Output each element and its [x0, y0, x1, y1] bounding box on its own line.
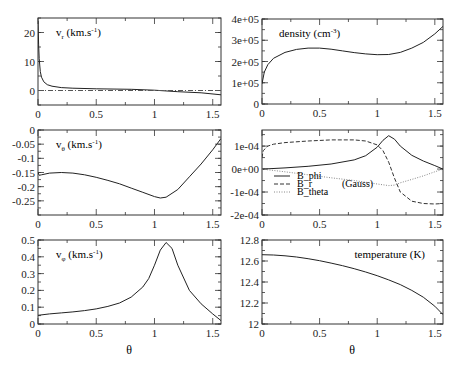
- x-tick-label: 1.5: [206, 218, 220, 230]
- x-tick-label: 0.5: [89, 108, 103, 120]
- x-tick-label: 0: [35, 327, 41, 339]
- panel-density: 00.511.501e+052e+053e+054e+05density (cm…: [231, 13, 443, 119]
- y-tick-label: 0: [30, 85, 36, 97]
- panel-annotation: density (cm-3): [279, 27, 340, 40]
- y-tick-label: 0.4: [21, 251, 35, 263]
- x-tick-label: 0.5: [89, 218, 103, 230]
- x-tick-label: 1.5: [206, 108, 220, 120]
- x-axis-label-right: θ: [349, 343, 355, 357]
- x-tick-label: 1.5: [428, 107, 442, 119]
- series-b-r: [262, 140, 443, 204]
- y-tick-label: 0: [30, 124, 36, 136]
- y-tick-label: 1e+05: [231, 77, 259, 89]
- panel-bfield: 00.511.51e-040e+00-1e-04-2e-04B_phiB_rB_…: [230, 130, 443, 230]
- x-tick-label: 1: [152, 218, 158, 230]
- y-tick-label: -2e-04: [230, 209, 259, 221]
- x-tick-label: 0: [259, 107, 265, 119]
- x-tick-label: 0.5: [313, 107, 327, 119]
- y-tick-label: 12.6: [240, 255, 260, 267]
- y-tick-label: 0e+00: [231, 163, 259, 175]
- y-tick-label: 0: [30, 318, 36, 330]
- panel-annotation: vφ (km.s-1): [56, 248, 103, 263]
- x-tick-label: 0.5: [313, 327, 327, 339]
- y-tick-label: -0.25: [12, 195, 35, 207]
- y-tick-label: 12.4: [240, 276, 260, 288]
- panel-annotation: vr (km.s-1): [56, 26, 101, 41]
- x-tick-label: 1: [374, 107, 380, 119]
- panel-annotation: vθ (km.s-1): [56, 138, 102, 153]
- y-tick-label: -1e-04: [230, 186, 259, 198]
- series-temperature: [262, 255, 443, 315]
- series-b-phi: [262, 136, 443, 169]
- x-tick-label: 0: [259, 327, 265, 339]
- panel-annotation: temperature (K): [354, 248, 425, 261]
- panel-vphi: 00.511.500.10.20.30.40.5vφ (km.s-1): [21, 234, 221, 339]
- y-tick-label: 0: [254, 98, 260, 110]
- panel-vtheta: 00.511.50-0.05-0.1-0.15-0.2-0.25vθ (km.s…: [12, 124, 221, 230]
- panel-vr: 00.511.501020vr (km.s-1): [24, 18, 221, 120]
- y-tick-label: -0.1: [18, 152, 35, 164]
- y-tick-label: 10: [24, 56, 36, 68]
- figure: 00.511.501020vr (km.s-1) 00.511.501e+052…: [0, 0, 455, 365]
- y-tick-label: 1e-04: [234, 140, 260, 152]
- x-tick-label: 1: [374, 327, 380, 339]
- plot-frame: [262, 130, 443, 215]
- x-tick-label: 0: [35, 108, 41, 120]
- x-tick-label: 1: [152, 327, 158, 339]
- y-tick-label: 0.2: [21, 284, 35, 296]
- y-tick-label: -0.2: [18, 181, 35, 193]
- y-tick-label: 12: [248, 318, 259, 330]
- x-tick-label: 1.5: [428, 327, 442, 339]
- y-tick-label: 12.8: [240, 234, 260, 246]
- x-axis-label-left: θ: [126, 343, 132, 357]
- x-tick-label: 0: [259, 218, 265, 230]
- x-tick-label: 0.5: [89, 327, 103, 339]
- panel-annotation: (Gauss): [342, 178, 373, 190]
- x-tick-label: 0.5: [313, 218, 327, 230]
- x-tick-label: 1.5: [206, 327, 220, 339]
- x-tick-label: 0: [35, 218, 41, 230]
- x-tick-label: 1.5: [428, 218, 442, 230]
- panel-temperature: 00.511.51212.212.412.612.8temperature (K…: [240, 234, 443, 339]
- y-tick-label: 20: [24, 27, 36, 39]
- y-tick-label: -0.15: [12, 167, 35, 179]
- legend-label: B_theta: [297, 186, 329, 197]
- y-tick-label: 0.1: [21, 301, 35, 313]
- x-tick-label: 1: [374, 218, 380, 230]
- y-tick-label: 12.2: [240, 297, 259, 309]
- y-tick-label: 3e+05: [231, 34, 259, 46]
- y-tick-label: 0.3: [21, 268, 35, 280]
- y-tick-label: 0.5: [21, 234, 35, 246]
- y-tick-label: -0.05: [12, 138, 35, 150]
- x-tick-label: 1: [152, 108, 158, 120]
- y-tick-label: 2e+05: [231, 56, 259, 68]
- y-tick-label: 4e+05: [231, 13, 259, 25]
